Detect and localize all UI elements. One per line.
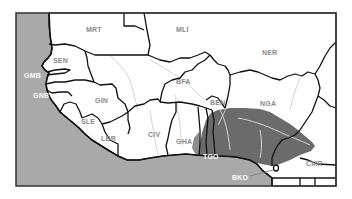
label-lbr: LBR [101, 135, 116, 142]
label-civ: CIV [148, 131, 160, 138]
label-sle: SLE [81, 118, 95, 125]
label-ben: BEN [210, 99, 225, 106]
label-gha: GHA [176, 138, 192, 145]
label-bko: BKO [232, 174, 249, 181]
label-mli: MLI [176, 26, 189, 33]
label-gin: GIN [95, 97, 108, 104]
label-cmr: CMR [306, 160, 323, 167]
label-nga: NGA [260, 100, 276, 107]
label-tgo: TGO [203, 153, 219, 160]
label-gmb: GMB [24, 72, 41, 79]
label-sen: SEN [53, 57, 68, 64]
west-africa-map: MRT MLI NER SEN GIN SLE LBR CIV BFA GHA … [0, 0, 352, 199]
label-ner: NER [262, 49, 277, 56]
bko-island [274, 165, 279, 171]
label-gnb: GNB [33, 92, 49, 99]
label-bfa: BFA [176, 78, 191, 85]
label-mrt: MRT [86, 26, 102, 33]
